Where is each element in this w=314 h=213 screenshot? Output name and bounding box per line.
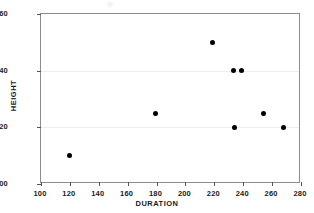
y-axis-tick-label: 140 xyxy=(0,66,8,75)
data-point xyxy=(231,68,236,73)
data-point xyxy=(210,40,215,45)
scatter-plot-figure: HEIGHT DURATION 100120140160 10012014016… xyxy=(0,0,314,213)
y-axis-tick xyxy=(37,14,41,15)
x-axis-tick xyxy=(70,182,71,186)
image-artifact xyxy=(105,1,115,8)
x-axis-tick xyxy=(301,182,302,186)
y-axis-tick-label: 160 xyxy=(0,9,8,18)
x-axis-title: DURATION xyxy=(0,199,314,208)
y-axis-title: HEIGHT xyxy=(9,66,18,126)
y-axis-tick xyxy=(37,71,41,72)
x-axis-tick xyxy=(243,182,244,186)
plot-area xyxy=(40,13,300,183)
x-axis-tick xyxy=(157,182,158,186)
data-point xyxy=(67,153,72,158)
gridline-horizontal xyxy=(41,127,299,128)
y-axis-tick-label: 100 xyxy=(0,179,8,188)
x-axis-tick xyxy=(214,182,215,186)
x-axis-tick xyxy=(41,182,42,186)
x-axis-tick xyxy=(128,182,129,186)
x-axis-tick xyxy=(99,182,100,186)
x-axis-tick-label: 280 xyxy=(280,189,314,198)
data-point xyxy=(281,125,286,130)
x-axis-tick xyxy=(185,182,186,186)
data-point xyxy=(232,125,237,130)
data-point xyxy=(261,111,266,116)
gridline-horizontal xyxy=(41,71,299,72)
x-axis-tick xyxy=(272,182,273,186)
data-point xyxy=(239,68,244,73)
data-point xyxy=(153,111,158,116)
y-axis-tick-label: 120 xyxy=(0,122,8,131)
y-axis-tick xyxy=(37,127,41,128)
